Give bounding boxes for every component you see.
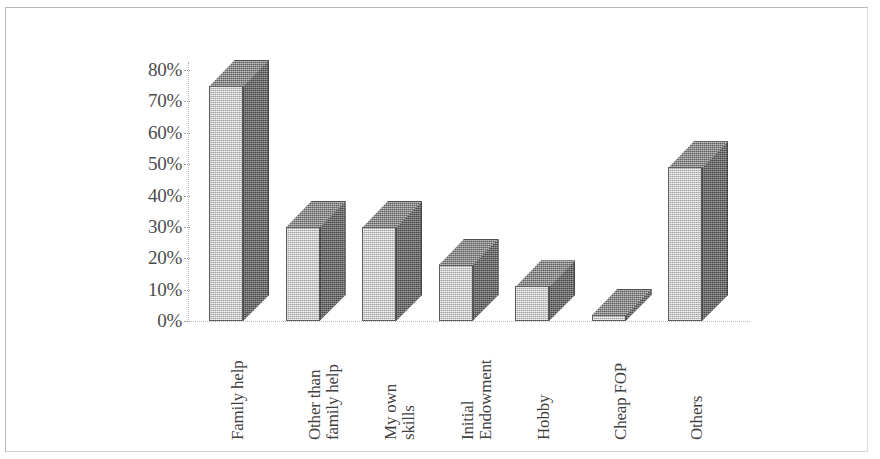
- y-tick-label: 30%: [120, 217, 182, 236]
- bar-side-face: [702, 141, 728, 321]
- bar: [592, 0, 652, 321]
- y-tick-mark: [184, 227, 190, 228]
- y-tick-label: 50%: [120, 154, 182, 173]
- bar-front-face: [286, 227, 320, 321]
- category-label: Other thanfamily help: [306, 364, 341, 440]
- category-label-line: Family help: [228, 361, 247, 441]
- category-label: My ownskills: [382, 384, 417, 440]
- bar-chart: 0%10%20%30%40%50%60%70%80% Family helpOt…: [0, 0, 880, 459]
- category-label: Family help: [229, 361, 247, 441]
- bar: [362, 0, 422, 321]
- category-label: Hobby: [535, 395, 553, 440]
- y-tick-label: 70%: [120, 91, 182, 110]
- bar-front-face: [668, 167, 702, 321]
- bar: [209, 0, 269, 321]
- category-label: Others: [688, 396, 706, 440]
- bar-front-face: [209, 86, 243, 321]
- category-label-line: Endowment: [476, 360, 494, 440]
- y-tick-label: 10%: [120, 280, 182, 299]
- y-tick-mark: [184, 321, 190, 322]
- bar-side-face: [243, 60, 269, 321]
- category-label-line: family help: [323, 364, 341, 440]
- y-tick-mark: [184, 258, 190, 259]
- bar: [439, 0, 499, 321]
- category-label-line: Initial: [458, 401, 477, 440]
- category-label: InitialEndowment: [459, 360, 494, 440]
- y-tick-mark: [184, 133, 190, 134]
- category-label-line: Hobby: [534, 395, 553, 440]
- x-axis-baseline: [188, 321, 750, 322]
- category-label-line: My own: [381, 384, 400, 440]
- bar-front-face: [362, 227, 396, 321]
- bar: [515, 0, 575, 321]
- y-tick-label: 60%: [120, 123, 182, 142]
- y-tick-label: 40%: [120, 186, 182, 205]
- y-tick-mark: [184, 164, 190, 165]
- category-label-line: Other than: [305, 370, 324, 440]
- y-axis: 0%10%20%30%40%50%60%70%80%: [120, 52, 182, 340]
- bar-front-face: [515, 286, 549, 321]
- category-label: Cheap FOP: [612, 363, 630, 440]
- bar-front-face: [592, 315, 626, 321]
- category-label-line: Cheap FOP: [611, 363, 630, 440]
- y-tick-mark: [184, 196, 190, 197]
- bar: [668, 0, 728, 321]
- y-tick-label: 20%: [120, 248, 182, 267]
- y-tick-mark: [184, 101, 190, 102]
- y-tick-mark: [184, 70, 190, 71]
- category-label-line: Others: [687, 396, 706, 440]
- y-tick-mark: [184, 290, 190, 291]
- bar-front-face: [439, 265, 473, 321]
- y-tick-label: 0%: [120, 311, 182, 330]
- category-label-line: skills: [400, 384, 418, 440]
- y-tick-label: 80%: [120, 60, 182, 79]
- bar: [286, 0, 346, 321]
